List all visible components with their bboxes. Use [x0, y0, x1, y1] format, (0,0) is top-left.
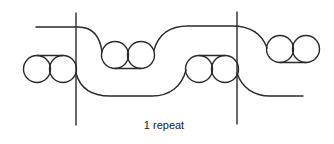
lower-strand [76, 70, 303, 96]
repeat-caption: 1 repeat [144, 119, 184, 131]
circle-pair-1 [24, 56, 77, 83]
circle-pair-4 [267, 36, 320, 63]
repeat-caption-container: 1 repeat [0, 119, 334, 131]
circle-pair-2 [102, 42, 155, 69]
circle-pair-3 [186, 56, 239, 83]
upper-strand [36, 26, 267, 52]
